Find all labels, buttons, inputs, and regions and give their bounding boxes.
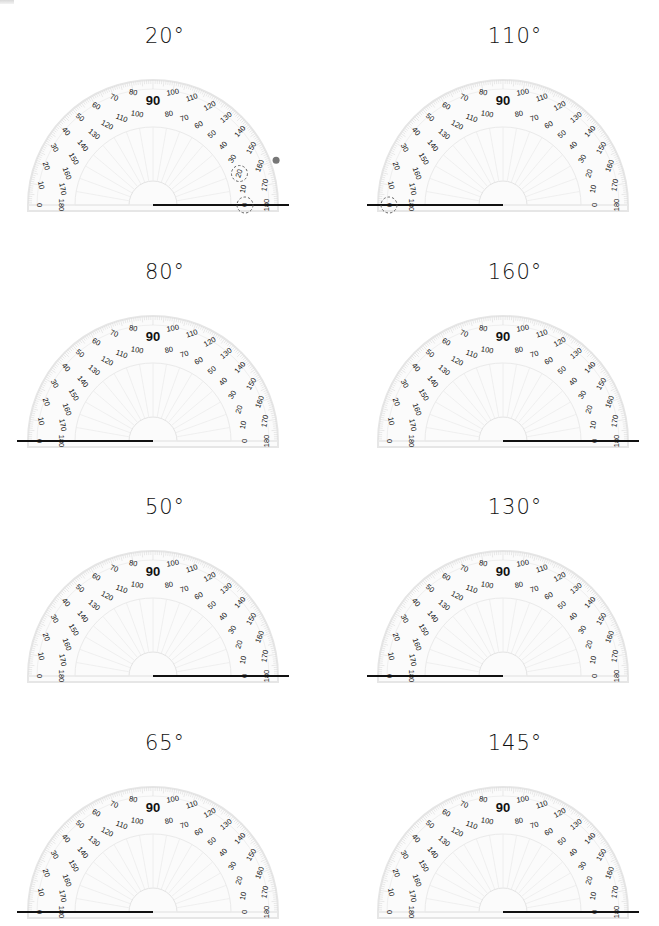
svg-text:10: 10 xyxy=(588,655,598,665)
svg-text:10: 10 xyxy=(238,655,248,665)
svg-text:90: 90 xyxy=(496,800,510,815)
protractor[interactable]: 0180101702016030150401405013060120701108… xyxy=(350,731,659,926)
protractor[interactable]: 0180101702016030150401405013060120701108… xyxy=(0,24,330,256)
svg-text:80: 80 xyxy=(164,816,174,826)
problem-7: 65° 018010170201603015040140501306012070… xyxy=(0,731,330,926)
svg-text:80: 80 xyxy=(478,558,488,568)
svg-text:90: 90 xyxy=(496,329,510,344)
svg-text:0: 0 xyxy=(35,203,44,207)
svg-text:10: 10 xyxy=(36,887,46,897)
svg-text:0: 0 xyxy=(590,203,599,207)
svg-text:0: 0 xyxy=(35,674,44,678)
svg-text:180: 180 xyxy=(57,199,66,212)
svg-text:90: 90 xyxy=(146,329,160,344)
problem-2: 110° 01801017020160301504014050130601207… xyxy=(350,24,659,256)
svg-text:10: 10 xyxy=(386,887,396,897)
problem-1: 20° 018010170201603015040140501306012070… xyxy=(0,24,330,256)
svg-text:80: 80 xyxy=(514,109,524,119)
svg-text:90: 90 xyxy=(146,93,160,108)
protractor[interactable]: 0180101702016030150401405013060120701108… xyxy=(350,24,659,256)
svg-text:80: 80 xyxy=(478,87,488,97)
svg-text:180: 180 xyxy=(612,670,621,683)
corner-mark xyxy=(0,0,14,4)
svg-text:80: 80 xyxy=(128,87,138,97)
svg-text:180: 180 xyxy=(407,906,416,919)
svg-text:10: 10 xyxy=(588,420,598,430)
svg-text:80: 80 xyxy=(514,580,524,590)
problem-3: 80° 018010170201603015040140501306012070… xyxy=(0,260,330,492)
svg-text:180: 180 xyxy=(262,906,271,919)
svg-text:10: 10 xyxy=(36,180,46,190)
svg-text:10: 10 xyxy=(238,184,248,194)
svg-text:90: 90 xyxy=(146,800,160,815)
svg-text:10: 10 xyxy=(386,416,396,426)
svg-text:10: 10 xyxy=(238,420,248,430)
svg-text:10: 10 xyxy=(36,651,46,661)
svg-text:80: 80 xyxy=(164,109,174,119)
svg-text:10: 10 xyxy=(386,180,396,190)
protractor[interactable]: 0180101702016030150401405013060120701108… xyxy=(0,731,330,926)
svg-text:90: 90 xyxy=(496,564,510,579)
svg-text:10: 10 xyxy=(588,891,598,901)
svg-text:90: 90 xyxy=(146,564,160,579)
target-dot xyxy=(273,157,280,164)
problem-5: 50° 018010170201603015040140501306012070… xyxy=(0,495,330,727)
svg-text:0: 0 xyxy=(385,439,394,443)
svg-text:80: 80 xyxy=(478,323,488,333)
svg-text:10: 10 xyxy=(588,184,598,194)
svg-text:10: 10 xyxy=(238,891,248,901)
svg-text:180: 180 xyxy=(262,435,271,448)
svg-text:0: 0 xyxy=(240,439,249,443)
svg-text:80: 80 xyxy=(164,345,174,355)
svg-text:0: 0 xyxy=(385,910,394,914)
svg-text:80: 80 xyxy=(128,794,138,804)
problem-8: 145° 01801017020160301504014050130601207… xyxy=(350,731,659,926)
svg-text:0: 0 xyxy=(590,674,599,678)
problem-4: 160° 01801017020160301504014050130601207… xyxy=(350,260,659,492)
svg-text:80: 80 xyxy=(164,580,174,590)
protractor[interactable]: 0180101702016030150401405013060120701108… xyxy=(350,495,659,727)
svg-text:0: 0 xyxy=(240,910,249,914)
svg-text:80: 80 xyxy=(514,345,524,355)
protractor[interactable]: 0180101702016030150401405013060120701108… xyxy=(0,495,330,727)
svg-text:80: 80 xyxy=(128,558,138,568)
svg-text:180: 180 xyxy=(57,670,66,683)
protractor-worksheet: 20° 018010170201603015040140501306012070… xyxy=(0,0,659,926)
svg-text:80: 80 xyxy=(128,323,138,333)
protractor[interactable]: 0180101702016030150401405013060120701108… xyxy=(350,260,659,492)
problem-6: 130° 01801017020160301504014050130601207… xyxy=(350,495,659,727)
svg-text:180: 180 xyxy=(407,435,416,448)
svg-text:10: 10 xyxy=(386,651,396,661)
svg-text:90: 90 xyxy=(496,93,510,108)
svg-text:10: 10 xyxy=(36,416,46,426)
svg-text:80: 80 xyxy=(514,816,524,826)
svg-text:80: 80 xyxy=(478,794,488,804)
protractor[interactable]: 0180101702016030150401405013060120701108… xyxy=(0,260,330,492)
svg-text:180: 180 xyxy=(612,199,621,212)
